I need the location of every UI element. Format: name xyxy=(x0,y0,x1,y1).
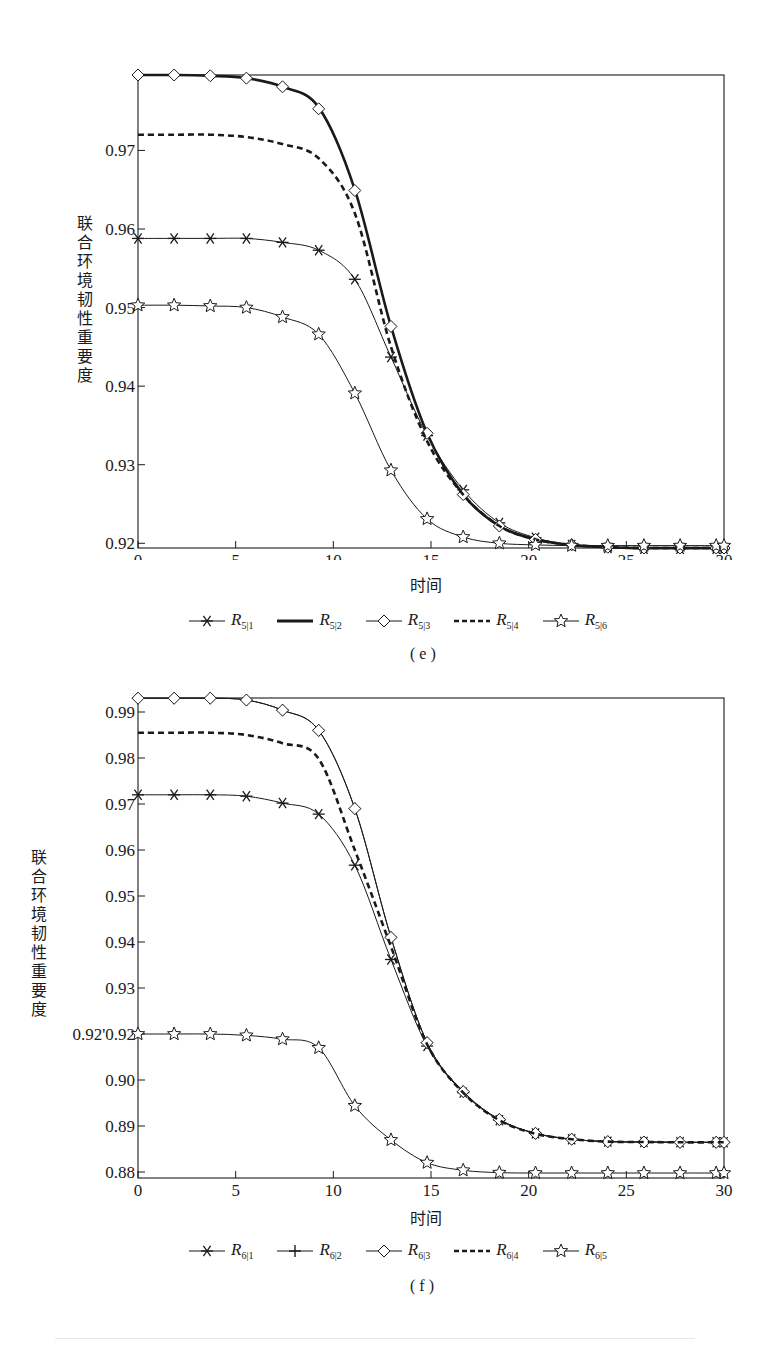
y-tick-label: 0.93 xyxy=(105,979,135,998)
series-R6-3 xyxy=(132,692,730,1148)
series-R6-1 xyxy=(132,790,730,1148)
plot-frame xyxy=(138,698,724,1178)
x-tick-label: 5 xyxy=(231,1181,240,1200)
footer-divider xyxy=(55,1338,695,1339)
x-tick-label: 25 xyxy=(618,1181,635,1200)
legend-item-6-1: R6|1 xyxy=(187,1240,253,1261)
legend-item-6-5: R6|5 xyxy=(541,1240,607,1261)
chart-f-x-axis-label: 时间 xyxy=(410,1205,442,1229)
y-tick-label: 0.97 xyxy=(105,795,135,814)
y-tick-label: 0.99 xyxy=(105,703,135,722)
legend-label: R6|5 xyxy=(585,1240,607,1261)
legend-item-6-3: R6|3 xyxy=(364,1240,430,1261)
y-tick-label: 0.94 xyxy=(105,933,135,952)
x-tick-label: 20 xyxy=(520,1181,537,1200)
dashed-icon xyxy=(452,1243,492,1259)
x-tick-label: 30 xyxy=(716,1181,733,1200)
x-tick-label: 10 xyxy=(325,1181,342,1200)
diamond-icon xyxy=(364,1243,404,1259)
y-tick-label: 0.90 xyxy=(105,1071,135,1090)
y-tick-label: 0.89 xyxy=(105,1117,135,1136)
x-tick-label: 15 xyxy=(423,1181,440,1200)
chart-f-y-axis-label: 联合环境韧性重要度 xyxy=(30,848,48,1019)
y-tick-label: 0.95 xyxy=(105,887,135,906)
legend-item-6-4: R6|4 xyxy=(452,1240,518,1261)
legend-label: R6|1 xyxy=(231,1240,253,1261)
legend-label: R6|4 xyxy=(496,1240,518,1261)
chart-f: 0510152025300.990.980.970.960.950.940.93… xyxy=(0,0,782,1348)
star-icon xyxy=(541,1243,581,1259)
chart-f-legend: R6|1R6|2R6|3R6|4R6|5 xyxy=(187,1240,629,1261)
x-tick-label: 0 xyxy=(134,1181,143,1200)
asterisk-icon xyxy=(187,1243,227,1259)
legend-label: R6|2 xyxy=(319,1240,341,1261)
series-R6-2 xyxy=(132,692,730,1148)
chart-f-plot: 0510152025300.990.980.970.960.950.940.93… xyxy=(0,0,782,1200)
y-tick-label: 0.88 xyxy=(105,1163,135,1182)
chart-f-caption: ( f ) xyxy=(410,1277,434,1295)
series-R6-4 xyxy=(138,733,724,1143)
y-tick-label: 0.92'0.92 xyxy=(72,1025,135,1044)
plus-icon xyxy=(275,1243,315,1259)
y-tick-label: 0.96 xyxy=(105,841,135,860)
legend-item-6-2: R6|2 xyxy=(275,1240,341,1261)
y-tick-label: 0.98 xyxy=(105,749,135,768)
legend-label: R6|3 xyxy=(408,1240,430,1261)
